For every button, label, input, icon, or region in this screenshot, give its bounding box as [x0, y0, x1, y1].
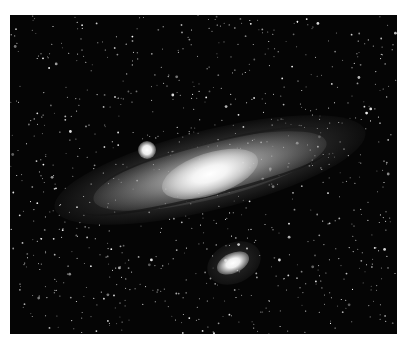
- satellite-galaxy-upper: [138, 141, 156, 159]
- galaxy-photo: [10, 15, 397, 334]
